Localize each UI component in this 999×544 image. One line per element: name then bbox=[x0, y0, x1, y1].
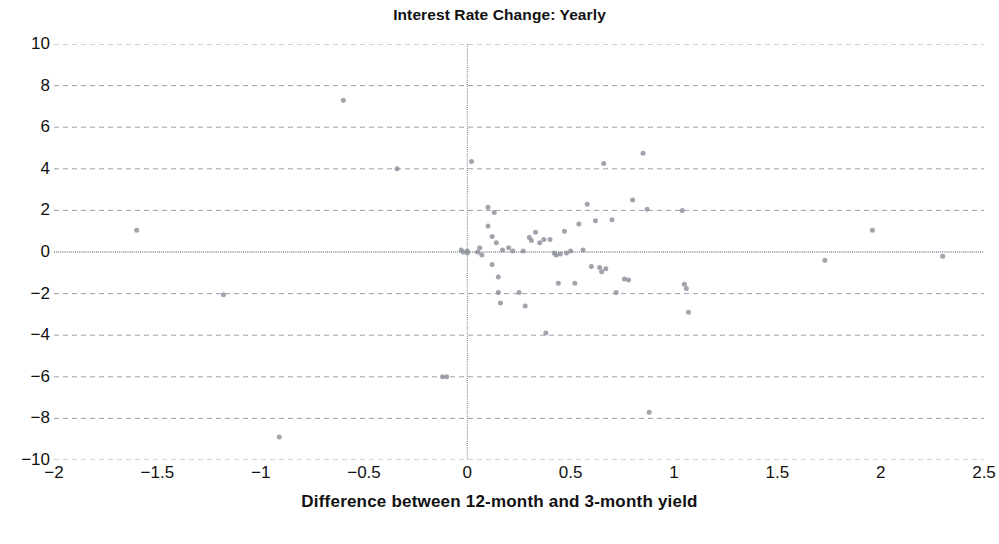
y-tick-label: 2 bbox=[6, 200, 50, 220]
data-point bbox=[585, 202, 590, 207]
data-point bbox=[686, 310, 691, 315]
data-point bbox=[680, 208, 685, 213]
data-point bbox=[568, 248, 573, 253]
data-point bbox=[541, 237, 546, 242]
x-tick-label: 1 bbox=[639, 463, 709, 483]
x-axis-tick-labels: −2−1.5−1−0.500.511.522.5 bbox=[0, 463, 999, 489]
data-point bbox=[444, 374, 449, 379]
y-tick-label: 6 bbox=[6, 117, 50, 137]
data-point bbox=[684, 286, 689, 291]
chart-title: Interest Rate Change: Yearly bbox=[0, 6, 999, 24]
x-tick-label: −0.5 bbox=[329, 463, 399, 483]
data-point bbox=[490, 234, 495, 239]
data-point bbox=[395, 166, 400, 171]
data-point bbox=[477, 245, 482, 250]
y-tick-label: 0 bbox=[6, 242, 50, 262]
data-point bbox=[523, 304, 528, 309]
x-tick-label: 0.5 bbox=[536, 463, 606, 483]
x-tick-label: −1.5 bbox=[122, 463, 192, 483]
y-tick-label: −4 bbox=[6, 325, 50, 345]
data-point bbox=[558, 252, 563, 257]
x-tick-label: 0 bbox=[432, 463, 502, 483]
data-point bbox=[486, 205, 491, 210]
data-point bbox=[576, 221, 581, 226]
y-tick-label: −2 bbox=[6, 284, 50, 304]
scatter-plot-svg bbox=[54, 44, 984, 460]
data-point bbox=[581, 247, 586, 252]
data-point bbox=[529, 238, 534, 243]
x-tick-label: 2.5 bbox=[949, 463, 999, 483]
data-point bbox=[645, 207, 650, 212]
data-point bbox=[562, 229, 567, 234]
data-point bbox=[603, 266, 608, 271]
data-point bbox=[641, 151, 646, 156]
data-point bbox=[626, 278, 631, 283]
data-point bbox=[614, 290, 619, 295]
data-point bbox=[479, 253, 484, 258]
data-point bbox=[496, 274, 501, 279]
data-point bbox=[548, 237, 553, 242]
data-point bbox=[221, 292, 226, 297]
data-point bbox=[277, 435, 282, 440]
data-point bbox=[498, 300, 503, 305]
data-point bbox=[630, 198, 635, 203]
chart-figure: Interest Rate Change: Yearly 1086420−2−4… bbox=[0, 0, 999, 544]
plot-area bbox=[54, 44, 984, 460]
data-point bbox=[341, 98, 346, 103]
data-point bbox=[496, 290, 501, 295]
data-point bbox=[870, 228, 875, 233]
y-tick-label: 10 bbox=[6, 34, 50, 54]
data-point bbox=[647, 410, 652, 415]
data-point bbox=[593, 218, 598, 223]
data-point bbox=[469, 159, 474, 164]
x-tick-label: −1 bbox=[226, 463, 296, 483]
data-point bbox=[500, 247, 505, 252]
y-tick-label: −6 bbox=[6, 367, 50, 387]
data-point bbox=[572, 281, 577, 286]
data-point bbox=[510, 248, 515, 253]
y-tick-label: 4 bbox=[6, 159, 50, 179]
data-point bbox=[465, 251, 470, 256]
data-point bbox=[601, 161, 606, 166]
data-point bbox=[599, 269, 604, 274]
data-point bbox=[490, 262, 495, 267]
data-point bbox=[492, 210, 497, 215]
data-point bbox=[610, 217, 615, 222]
y-tick-label: −8 bbox=[6, 408, 50, 428]
data-point bbox=[822, 258, 827, 263]
data-point bbox=[486, 224, 491, 229]
data-point bbox=[506, 245, 511, 250]
x-axis-label: Difference between 12-month and 3-month … bbox=[0, 492, 999, 512]
data-point bbox=[494, 240, 499, 245]
x-tick-label: 2 bbox=[846, 463, 916, 483]
data-point bbox=[556, 281, 561, 286]
y-tick-label: 8 bbox=[6, 76, 50, 96]
data-point bbox=[533, 230, 538, 235]
x-tick-label: −2 bbox=[19, 463, 89, 483]
data-point bbox=[521, 248, 526, 253]
data-point bbox=[537, 240, 542, 245]
data-point bbox=[517, 290, 522, 295]
data-point bbox=[589, 264, 594, 269]
x-tick-label: 1.5 bbox=[742, 463, 812, 483]
data-point bbox=[940, 254, 945, 259]
data-point bbox=[543, 331, 548, 336]
data-point bbox=[134, 228, 139, 233]
